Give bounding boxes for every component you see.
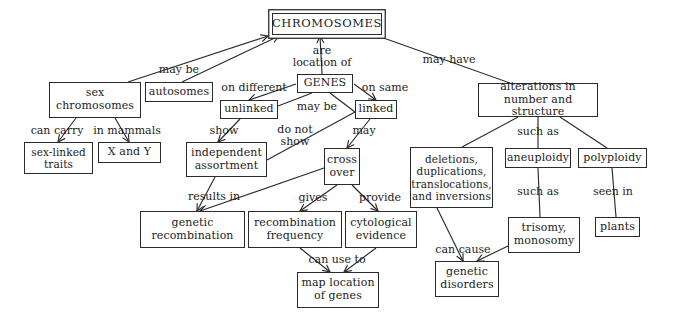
node-sex_chromosomes[interactable]: sex chromosomes — [49, 82, 141, 118]
node-autosomes[interactable]: autosomes — [145, 82, 213, 102]
node-map_location_of_genes[interactable]: map location of genes — [297, 272, 379, 308]
edge-label-lbl-seen-in: seen in — [593, 186, 633, 198]
node-polyploidy[interactable]: polyploidy — [578, 148, 647, 168]
node-layer: CHROMOSOMESsex chromosomesautosomessex-l… — [0, 0, 674, 319]
edge-label-lbl-on-same: on same — [362, 82, 408, 94]
edge-label-lbl-such-as-aneuploidy: such as — [517, 186, 559, 198]
node-chromosomes[interactable]: CHROMOSOMES — [272, 13, 382, 35]
node-genetic_disorders[interactable]: genetic disorders — [435, 261, 499, 297]
concept-map-canvas: CHROMOSOMESsex chromosomesautosomessex-l… — [0, 0, 674, 319]
edge-label-lbl-in-mammals: in mammals — [93, 125, 161, 137]
edge-label-lbl-gives: gives — [299, 192, 328, 204]
node-alterations[interactable]: alterations in number and structure — [478, 83, 598, 117]
edge-label-lbl-may-have: may have — [422, 54, 475, 66]
edge-label-lbl-may-be-genes: may be — [297, 101, 337, 113]
edge-label-lbl-can-cause: can cause — [435, 244, 490, 256]
node-sex_linked_traits[interactable]: sex-linked traits — [24, 142, 93, 174]
node-independent_assortment[interactable]: independent assortment — [186, 142, 267, 177]
node-cytological_evidence[interactable]: cytological evidence — [345, 211, 417, 248]
edge-label-lbl-can-carry: can carry — [31, 125, 84, 137]
edge-label-lbl-results-in: results in — [188, 191, 240, 203]
edge-label-lbl-can-use-to: can use to — [308, 254, 365, 266]
edge-label-lbl-may: may — [352, 125, 375, 137]
node-deletions[interactable]: deletions, duplications, translocations,… — [410, 147, 493, 208]
node-unlinked[interactable]: unlinked — [220, 100, 278, 119]
node-x_and_y[interactable]: X and Y — [98, 142, 161, 163]
node-recombination_frequency[interactable]: recombination frequency — [248, 211, 342, 248]
node-plants[interactable]: plants — [595, 217, 640, 237]
node-genetic_recombination[interactable]: genetic recombination — [140, 211, 245, 248]
node-trisomy_monosomy[interactable]: trisomy, monosomy — [508, 217, 580, 253]
node-aneuploidy[interactable]: aneuploidy — [505, 148, 571, 168]
edge-label-lbl-such-as-alterations: such as — [517, 126, 559, 138]
edge-label-lbl-show: show — [210, 125, 239, 137]
node-genes[interactable]: GENES — [297, 74, 353, 93]
node-linked[interactable]: linked — [355, 100, 397, 119]
edge-label-lbl-may-be: may be — [159, 64, 199, 76]
edge-label-lbl-are-location-of: are location of — [293, 45, 352, 70]
edge-label-lbl-provide: provide — [359, 192, 401, 204]
edge-label-lbl-on-different: on different — [221, 82, 286, 94]
edge-label-lbl-do-not-show: do not show — [277, 124, 312, 149]
node-cross_over[interactable]: cross over — [324, 148, 360, 185]
